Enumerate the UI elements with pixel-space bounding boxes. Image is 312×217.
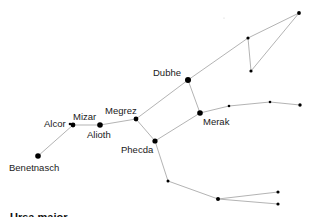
edge-s1-s2 [248,38,251,71]
edge-merak-phecda [155,113,200,141]
edge-s5-s6 [270,102,300,105]
edge-s2-s3 [251,13,299,71]
edge-s8-s9 [218,192,278,199]
edge-phecda-s7 [155,141,168,181]
constellation-lines [38,13,300,204]
star-s1 [246,36,249,39]
star-s5 [269,101,272,104]
star-label-alioth: Alioth [87,130,111,140]
star-dubhe [185,77,191,83]
star-s7 [167,180,170,183]
edge-merak-s4 [200,106,229,113]
star-label-dubhe: Dubhe [153,68,181,78]
caption-cropped: Ursa major [10,211,67,217]
star-s10 [276,202,279,205]
edge-s8-s10 [218,199,278,204]
star-s9 [276,190,279,193]
edge-dubhe-merak [188,80,200,113]
edge-s7-s8 [168,181,218,199]
edge-megrez-dubhe [136,80,188,119]
star-merak [197,110,203,116]
star-alioth [97,122,103,128]
star-label-benetnasch: Benetnasch [9,163,59,173]
star-s8 [216,197,220,201]
edge-alioth-megrez [100,119,136,125]
edge-dubhe-s1 [188,38,248,80]
edge-s1-s3 [248,13,299,38]
star-megrez [134,117,139,122]
star-s2 [249,69,252,72]
edge-benetnasch-mizar [38,125,73,156]
star-benetnasch [35,153,41,159]
star-label-phecda: Phecda [121,145,153,155]
star-s3 [297,11,301,15]
edge-megrez-phecda [136,119,155,141]
star-mizar [71,123,76,128]
star-s6 [298,103,301,106]
star-label-megrez: Megrez [105,106,137,116]
star-s4 [228,105,231,108]
star-points [35,11,301,205]
edge-s4-s5 [229,102,270,106]
star-faint [223,17,224,18]
star-label-merak: Merak [203,117,229,127]
star-phecda [152,138,157,143]
star-label-alcor: Alcor [44,119,66,129]
star-label-mizar: Mizar [73,112,96,122]
constellation-diagram [0,0,312,217]
